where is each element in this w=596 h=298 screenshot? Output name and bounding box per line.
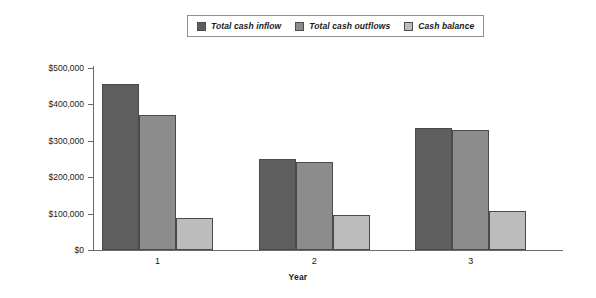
y-axis-tick-label: $0 bbox=[0, 245, 86, 255]
bar-1-series-2 bbox=[176, 218, 213, 250]
y-axis-tick-label: $400,000 bbox=[0, 99, 86, 109]
bar-3-series-2 bbox=[489, 211, 526, 250]
y-axis-tick bbox=[88, 68, 93, 69]
y-axis-tick bbox=[88, 104, 93, 105]
y-axis-tick bbox=[88, 250, 93, 251]
y-axis-tick bbox=[88, 177, 93, 178]
plot-area: $0$100,000$200,000$300,000$400,000$500,0… bbox=[0, 0, 596, 298]
bar-3-series-1 bbox=[452, 130, 489, 250]
bar-2-series-1 bbox=[296, 162, 333, 250]
x-axis-title: Year bbox=[0, 272, 596, 282]
x-axis-line bbox=[93, 250, 563, 251]
x-axis-tick-label: 2 bbox=[312, 256, 317, 266]
y-axis-tick-label: $100,000 bbox=[0, 209, 86, 219]
y-axis-tick-label: $500,000 bbox=[0, 63, 86, 73]
y-axis-tick-label: $200,000 bbox=[0, 172, 86, 182]
bar-1-series-1 bbox=[139, 115, 176, 250]
y-axis-tick-label: $300,000 bbox=[0, 136, 86, 146]
y-axis-line bbox=[93, 66, 94, 251]
y-axis-tick bbox=[88, 141, 93, 142]
bar-3-series-0 bbox=[415, 128, 452, 250]
x-axis-tick-label: 1 bbox=[155, 256, 160, 266]
y-axis-tick bbox=[88, 214, 93, 215]
bar-1-series-0 bbox=[102, 84, 139, 250]
bar-chart: Total cash inflow Total cash outflows Ca… bbox=[0, 0, 596, 298]
bar-2-series-0 bbox=[259, 159, 296, 250]
x-axis-tick-label: 3 bbox=[468, 256, 473, 266]
bar-2-series-2 bbox=[333, 215, 370, 250]
